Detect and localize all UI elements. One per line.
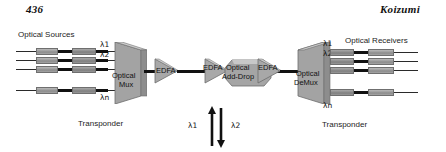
page-header: 436 Koizumi [0,0,446,22]
mux-lambda-n-label: λn [100,94,109,102]
running-head-author: Koizumi [380,3,420,15]
optical-mux-label-line1: Optical [112,72,135,80]
edfa-1-label: EDFA [156,67,176,75]
transponder-module [72,57,96,64]
add-drop-label-line1: Optical [226,64,249,72]
fiber-jumper [58,89,72,92]
transponder-module [330,58,354,65]
wdm-network-diagram: Optical Sources Optical Receivers Transp… [0,22,446,152]
fiber-line [394,52,418,53]
fiber-jumper [58,50,72,53]
edfa-3-label: EDFA [258,64,278,72]
receiver-row [330,88,435,97]
page-number: 436 [26,3,43,15]
transponder-module [72,48,96,55]
fiber-tail [96,89,108,92]
add-drop-arrows-icon [206,106,228,148]
fiber-line [16,90,36,91]
receiver-row [330,57,435,66]
receiver-bank-right [330,22,446,122]
transponder-bank-left [0,22,120,122]
optical-demux-label-line1: Optical [296,70,319,78]
fiber-jumper [58,59,72,62]
fiber-line [16,69,36,70]
transponder-module [330,67,354,74]
add-drop-arrow-group: λ1 λ2 [188,106,258,150]
transponder-module [330,49,354,56]
transponder-module [330,89,354,96]
laser-source [36,87,58,94]
drop-wavelength-label: λ2 [231,122,240,130]
receiver-module [368,58,394,65]
fiber-line [394,92,418,93]
fiber-tail [96,68,108,71]
source-row [16,65,114,74]
laser-source [36,48,58,55]
fiber-line [16,60,36,61]
fiber-jumper [354,91,368,94]
fiber-jumper [354,51,368,54]
fiber-line [394,61,418,62]
receiver-module [368,49,394,56]
laser-source [36,57,58,64]
fiber-line [16,51,36,52]
add-drop-label-line2: Add-Drop [222,73,254,81]
receiver-module [368,89,394,96]
fiber-tail [96,59,108,62]
add-wavelength-label: λ1 [188,122,197,130]
mux-lambda-2-label: λ2 [100,51,109,59]
transponder-module [72,66,96,73]
fiber-jumper [354,69,368,72]
optical-demux-label-line2: DeMux [294,79,318,87]
fiber-jumper [58,68,72,71]
receiver-row [330,66,435,75]
trunk-fiber-edfa1-to-edfa2 [177,70,205,73]
receiver-module [368,67,394,74]
fiber-jumper [354,60,368,63]
transponder-module [72,87,96,94]
fiber-line [394,70,418,71]
edfa-2-label: EDFA [203,64,223,72]
optical-mux-label-line2: Mux [119,81,133,89]
receiver-row [330,48,435,57]
mux-lambda-1-label: λ1 [100,41,109,49]
laser-source [36,66,58,73]
